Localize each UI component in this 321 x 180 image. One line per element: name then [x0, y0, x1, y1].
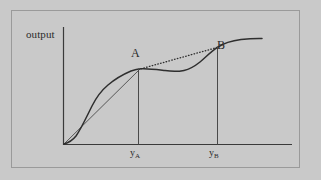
dotted-chord-AB — [141, 47, 218, 69]
output-curve-figure — [0, 0, 321, 180]
origin-chord-line — [64, 69, 140, 144]
x-tick-label-ya: yA — [130, 148, 140, 160]
output-curve — [64, 39, 262, 144]
tick-yb-subscript: B — [214, 152, 219, 160]
point-label-a: A — [131, 47, 140, 59]
y-axis-label: output — [26, 29, 55, 40]
point-label-b: B — [217, 39, 225, 51]
figure-container: output A B yA yB — [0, 0, 321, 180]
x-tick-label-yb: yB — [209, 148, 219, 160]
tick-ya-subscript: A — [135, 152, 140, 160]
